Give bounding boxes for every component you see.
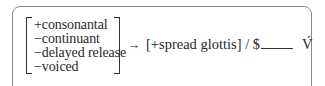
feature: +consonantal bbox=[34, 18, 108, 32]
syllable-boundary: $ bbox=[253, 36, 260, 52]
feature: −continuant bbox=[34, 32, 100, 46]
rule-output: [+spread glottis] bbox=[146, 36, 242, 52]
feature: −voiced bbox=[34, 60, 79, 74]
left-bracket bbox=[26, 17, 32, 74]
feature: −delayed release bbox=[34, 46, 126, 60]
stressed-vowel: V́ bbox=[302, 36, 312, 52]
right-bracket bbox=[114, 17, 120, 74]
rule-slash: / bbox=[245, 36, 249, 52]
feature-matrix: +consonantal −continuant −delayed releas… bbox=[26, 16, 120, 74]
environment-blank bbox=[261, 36, 293, 49]
rule-rhs: →[+spread glottis] / $V́ bbox=[127, 36, 313, 53]
arrow-icon: → bbox=[127, 37, 140, 53]
